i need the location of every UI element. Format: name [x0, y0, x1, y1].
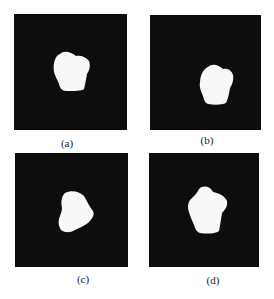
- blob-shape-d: [149, 153, 259, 267]
- panel-a-image: [14, 14, 127, 130]
- blob-shape-a: [14, 14, 127, 130]
- panel-b-image: [150, 15, 261, 130]
- figure-grid: (a) (b) (c) (d): [0, 0, 274, 299]
- caption-d: (d): [207, 275, 220, 286]
- blob-shape-b: [150, 15, 261, 130]
- blob-shape-c: [15, 153, 128, 267]
- panel-c-image: [15, 153, 128, 267]
- caption-c: (c): [77, 274, 89, 285]
- panel-d-image: [149, 153, 259, 267]
- caption-a: (a): [61, 138, 73, 149]
- caption-b: (b): [201, 135, 214, 146]
